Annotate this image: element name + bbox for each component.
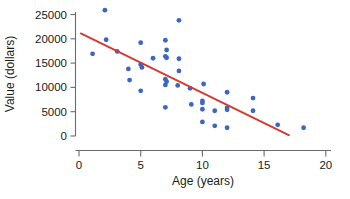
data-point <box>104 37 109 42</box>
y-tick-label: 0 <box>61 130 67 142</box>
data-point <box>127 78 132 83</box>
y-tick-label: 15000 <box>35 57 67 69</box>
data-point <box>275 122 280 127</box>
x-axis-ticks <box>79 151 326 157</box>
data-point <box>177 68 182 73</box>
data-point <box>90 51 95 56</box>
x-axis-tick-labels: 05101520 <box>76 159 332 171</box>
data-point <box>103 8 108 13</box>
y-axis-title: Value (dollars) <box>3 36 17 112</box>
data-point <box>164 55 169 60</box>
data-point <box>225 107 230 112</box>
data-point <box>175 83 180 88</box>
y-axis-tick-labels: 0500010000150002000025000 <box>35 9 67 143</box>
chart-canvas: 0500010000150002000025000 05101520 Age (… <box>0 0 350 199</box>
data-point <box>163 105 168 110</box>
data-point <box>251 108 256 113</box>
data-point <box>177 18 182 23</box>
regression-trend-line <box>81 33 289 135</box>
x-tick-label: 0 <box>76 159 82 171</box>
data-point <box>201 82 206 87</box>
x-tick-label: 10 <box>196 159 209 171</box>
y-axis-ticks <box>71 15 76 137</box>
x-axis-title: Age (years) <box>172 174 234 188</box>
y-tick-label: 10000 <box>35 81 67 93</box>
data-point <box>163 83 168 88</box>
data-point <box>251 96 256 101</box>
data-point <box>151 56 156 61</box>
x-tick-label: 20 <box>319 159 332 171</box>
x-tick-label: 5 <box>137 159 143 171</box>
data-point <box>177 56 182 61</box>
scatter-plot-figure: 0500010000150002000025000 05101520 Age (… <box>0 0 350 199</box>
data-point <box>212 123 217 128</box>
data-point <box>225 90 230 95</box>
y-tick-label: 20000 <box>35 33 67 45</box>
x-tick-label: 15 <box>258 159 271 171</box>
y-tick-label: 25000 <box>35 9 67 21</box>
data-point <box>200 107 205 112</box>
data-point <box>138 88 143 93</box>
data-point <box>163 38 168 43</box>
data-point <box>138 40 143 45</box>
data-point <box>200 101 205 106</box>
data-point <box>140 65 145 70</box>
data-point <box>126 67 131 72</box>
data-point <box>212 108 217 113</box>
data-point <box>164 48 169 53</box>
data-points-group <box>90 8 306 130</box>
y-tick-label: 5000 <box>41 106 67 118</box>
data-point <box>225 125 230 130</box>
data-point <box>200 120 205 125</box>
data-point <box>189 102 194 107</box>
data-point <box>301 125 306 130</box>
